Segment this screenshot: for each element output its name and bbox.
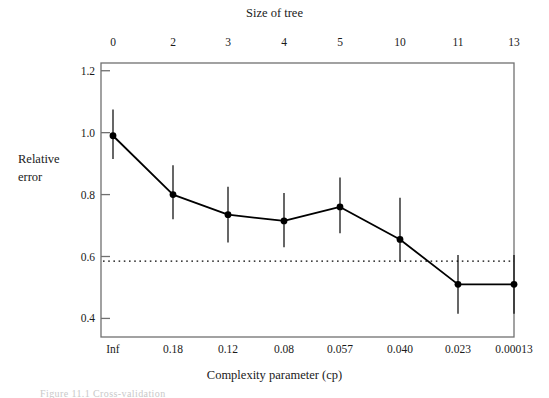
figure-container: Size of tree Relative error Complexity p… bbox=[0, 0, 549, 398]
error-bars bbox=[113, 109, 514, 313]
y-axis-ticks bbox=[101, 71, 110, 319]
plot-box bbox=[101, 63, 514, 337]
plot-area bbox=[0, 0, 549, 398]
figure-caption: Figure 11.1 Cross-validation bbox=[40, 388, 166, 398]
data-points bbox=[110, 132, 518, 287]
